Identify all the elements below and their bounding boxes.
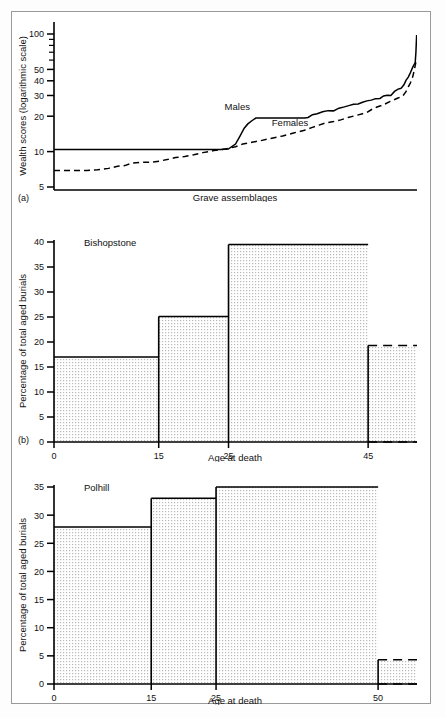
chart-polhill: 05101520253035 0152550 Polhill Percentag… bbox=[12, 460, 430, 705]
chart-wealth-scores: 51020304050100 Males Females Wealth scor… bbox=[12, 12, 430, 202]
y-tick-label: 5 bbox=[39, 412, 44, 422]
y-tick-label: 25 bbox=[34, 312, 44, 322]
y-ticks-a: 51020304050100 bbox=[29, 29, 54, 192]
y-tick-label: 5 bbox=[39, 651, 44, 661]
y-tick-label: 0 bbox=[39, 679, 44, 689]
y-tick-label: 15 bbox=[34, 362, 44, 372]
x-axis-label-c: Age at death bbox=[208, 695, 262, 705]
figure-page: 51020304050100 Males Females Wealth scor… bbox=[0, 0, 445, 718]
histogram-bar bbox=[378, 660, 417, 684]
bars-bishopstone bbox=[54, 245, 417, 443]
y-tick-label: 10 bbox=[34, 147, 44, 157]
series-males-line bbox=[54, 35, 417, 150]
series-females-line bbox=[54, 58, 417, 170]
annotation-females: Females bbox=[272, 117, 309, 128]
histogram-bar bbox=[54, 527, 151, 684]
y-tick-label: 15 bbox=[34, 595, 44, 605]
y-tick-label: 10 bbox=[34, 387, 44, 397]
y-tick-label: 30 bbox=[34, 287, 44, 297]
y-tick-label: 40 bbox=[34, 237, 44, 247]
y-tick-label: 10 bbox=[34, 623, 44, 633]
histogram-bar bbox=[229, 245, 369, 443]
x-axis-label-a: Grave assemblages bbox=[193, 192, 278, 202]
x-tick-label: 50 bbox=[373, 693, 383, 703]
histogram-bar bbox=[151, 498, 216, 684]
chart-title-bishopstone: Bishopstone bbox=[84, 237, 136, 248]
annotation-males: Males bbox=[225, 101, 251, 112]
y-tick-label: 0 bbox=[39, 437, 44, 447]
panel-b-label: (b) bbox=[18, 435, 29, 445]
y-tick-label: 25 bbox=[34, 539, 44, 549]
y-ticks-c: 05101520253035 bbox=[34, 482, 54, 689]
histogram-bar bbox=[54, 357, 159, 442]
y-tick-label: 20 bbox=[34, 567, 44, 577]
y-axis-label-b: Percentage of total aged burials bbox=[17, 274, 28, 408]
chart-bishopstone: 0510152025303540 0152545 Bishopstone Per… bbox=[12, 212, 430, 462]
y-tick-label: 20 bbox=[34, 337, 44, 347]
x-tick-label: 15 bbox=[146, 693, 156, 703]
histogram-bar bbox=[159, 317, 229, 443]
y-tick-label: 40 bbox=[34, 76, 44, 86]
chart-title-polhill: Polhill bbox=[84, 482, 109, 493]
y-axis-label-a: Wealth scores (logarithmic scale) bbox=[17, 36, 28, 176]
y-tick-label: 30 bbox=[34, 511, 44, 521]
bars-polhill bbox=[54, 487, 417, 684]
histogram-bar bbox=[368, 346, 417, 443]
y-axis-label-c: Percentage of total aged burials bbox=[17, 518, 28, 652]
x-tick-label: 0 bbox=[51, 693, 56, 703]
histogram-bar bbox=[216, 487, 378, 684]
y-tick-label: 100 bbox=[29, 29, 44, 39]
figure-frame: 51020304050100 Males Females Wealth scor… bbox=[11, 11, 431, 704]
y-tick-label: 50 bbox=[34, 65, 44, 75]
y-tick-label: 20 bbox=[34, 112, 44, 122]
y-tick-label: 35 bbox=[34, 482, 44, 492]
y-tick-label: 35 bbox=[34, 262, 44, 272]
y-tick-label: 5 bbox=[39, 182, 44, 192]
y-ticks-b: 0510152025303540 bbox=[34, 237, 54, 447]
y-tick-label: 30 bbox=[34, 91, 44, 101]
panel-a-label: (a) bbox=[18, 193, 29, 203]
